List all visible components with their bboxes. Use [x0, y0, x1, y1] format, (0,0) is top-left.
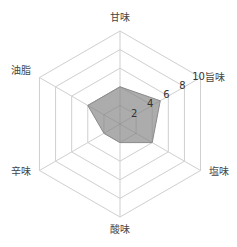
tick-label: 10 [192, 71, 205, 82]
axis-label: 油脂 [11, 64, 31, 76]
tick-label: 6 [163, 89, 169, 100]
tick-label: 4 [147, 98, 153, 109]
tick-label: 8 [179, 80, 185, 91]
axis-label: 旨味 [205, 72, 225, 83]
axis-label: 塩味 [209, 165, 229, 177]
radar-chart-canvas: 246810 甘味旨味塩味酸味辛味油脂 [0, 0, 237, 247]
tick-label: 2 [131, 108, 137, 119]
axis-label: 酸味 [110, 223, 130, 235]
radar-chart: 246810 甘味旨味塩味酸味辛味油脂 [0, 0, 237, 247]
axis-label: 辛味 [11, 165, 31, 177]
axis-label: 甘味 [110, 11, 130, 23]
series-polygon [88, 87, 160, 143]
